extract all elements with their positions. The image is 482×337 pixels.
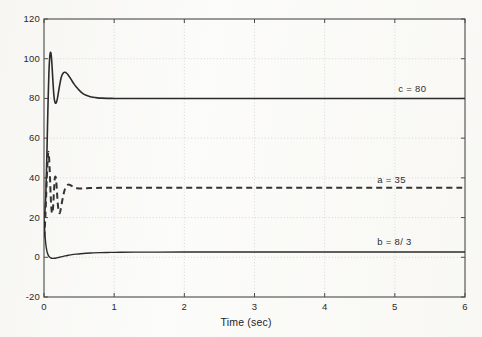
a-annotation: a = 35 <box>377 174 405 185</box>
x-tick-label: 2 <box>169 301 199 312</box>
y-tick-label: 120 <box>2 13 40 24</box>
c-annotation: c = 80 <box>398 83 426 94</box>
y-tick-label: 100 <box>2 53 40 64</box>
y-tick-label: 60 <box>2 132 40 143</box>
y-tick-label: 80 <box>2 92 40 103</box>
figure-canvas: -200204060801001200123456 c = 80a = 35b … <box>0 0 482 337</box>
x-tick-label: 0 <box>29 301 59 312</box>
x-tick-label: 3 <box>240 301 270 312</box>
x-tick-label: 6 <box>450 301 480 312</box>
y-tick-label: 20 <box>2 212 40 223</box>
y-tick-label: 40 <box>2 172 40 183</box>
x-tick-label: 5 <box>380 301 410 312</box>
y-tick-label: 0 <box>2 251 40 262</box>
x-tick-label: 4 <box>310 301 340 312</box>
chart-plot-area <box>0 0 482 337</box>
x-tick-label: 1 <box>99 301 129 312</box>
grid-lines <box>44 19 465 297</box>
x-axis-title: Time (sec) <box>221 316 272 328</box>
b-annotation: b = 8/ 3 <box>377 236 411 247</box>
